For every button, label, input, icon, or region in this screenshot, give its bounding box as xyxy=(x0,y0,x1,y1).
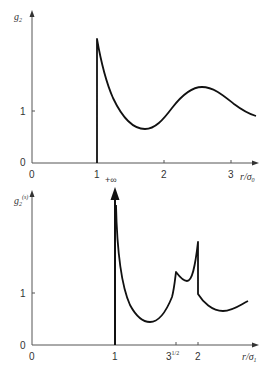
top-y-tick-label-1: 1 xyxy=(20,106,26,117)
bottom-y-tick-label-0: 0 xyxy=(20,340,26,351)
top-x-tick-label-2: 2 xyxy=(161,169,167,180)
top-x-axis-label: r/σ0 xyxy=(240,171,255,183)
bottom-g2s-curve xyxy=(116,205,248,322)
top-x-tick-label-1: 1 xyxy=(94,169,100,180)
bottom-y-axis-arrow-icon xyxy=(30,190,35,197)
top-y-tick-label-0: 0 xyxy=(20,157,26,168)
top-y-axis-label: g2 xyxy=(14,11,22,23)
bottom-x-tick-label-1: 1 xyxy=(112,351,118,362)
bottom-x-axis-label: r/σ1 xyxy=(242,351,257,363)
infinity-annotation: +∞ xyxy=(105,175,117,185)
bottom-x-tick-label-2: 2 xyxy=(195,351,201,362)
chart-figure: 0 1 0 1 2 3 g2 r/σ0 0 1 0 1 31/2 2 g2(s)… xyxy=(0,0,273,375)
top-g2-curve xyxy=(97,39,256,163)
bottom-chart: 0 1 0 1 31/2 2 g2(s) r/σ1 +∞ xyxy=(14,175,259,363)
delta-spike-arrow-icon xyxy=(111,187,120,200)
top-x-axis-arrow-icon xyxy=(252,161,259,166)
top-chart: 0 1 0 1 2 3 g2 r/σ0 xyxy=(14,10,259,183)
bottom-y-tick-label-1: 1 xyxy=(20,288,26,299)
bottom-x-tick-label-sqrt3: 31/2 xyxy=(166,350,179,362)
top-x-tick-label-3: 3 xyxy=(228,169,234,180)
bottom-x-tick-label-0: 0 xyxy=(29,351,35,362)
top-x-tick-label-0: 0 xyxy=(29,169,35,180)
bottom-x-axis-arrow-icon xyxy=(252,343,259,348)
bottom-y-axis-label: g2(s) xyxy=(14,194,28,207)
top-y-axis-arrow-icon xyxy=(30,10,35,17)
